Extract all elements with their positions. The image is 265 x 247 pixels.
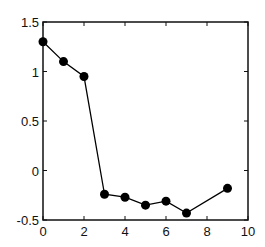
data-point-marker: [100, 190, 109, 199]
plot-frame: [43, 22, 248, 220]
x-tick-label: 6: [162, 224, 169, 239]
y-tick-label: 1: [32, 65, 39, 80]
data-point-marker: [80, 72, 89, 81]
y-tick-label: 1.5: [21, 15, 39, 30]
data-point-marker: [162, 197, 171, 206]
x-tick-label: 0: [39, 224, 46, 239]
y-tick-label: 0.5: [21, 114, 39, 129]
data-point-marker: [182, 209, 191, 218]
x-tick-label: 2: [80, 224, 87, 239]
data-point-marker: [141, 201, 150, 210]
data-point-marker: [59, 57, 68, 66]
series-line: [43, 42, 228, 213]
x-tick-label: 8: [203, 224, 210, 239]
y-tick-label: -0.5: [17, 213, 39, 228]
data-point-marker: [39, 37, 48, 46]
y-tick-label: 0: [32, 164, 39, 179]
x-tick-label: 10: [241, 224, 255, 239]
data-point-marker: [223, 184, 232, 193]
data-point-marker: [121, 193, 130, 202]
line-chart: 0246810-0.500.511.5: [0, 0, 265, 247]
x-tick-label: 4: [121, 224, 128, 239]
